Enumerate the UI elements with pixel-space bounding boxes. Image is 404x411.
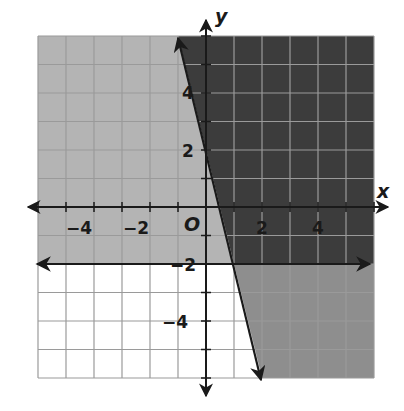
y-tick-label-neg4: −4 (162, 312, 188, 332)
x-tick-label-4: 4 (312, 218, 324, 238)
x-axis-label: x (376, 180, 390, 202)
x-tick-label-neg4: −4 (66, 218, 92, 238)
inequality-graph: x y O −4 −2 2 4 4 2 −2 −4 (0, 0, 404, 411)
y-axis-label: y (215, 5, 229, 27)
x-tick-label-2: 2 (256, 218, 268, 238)
origin-label: O (184, 213, 200, 235)
y-tick-label-2: 2 (182, 141, 194, 161)
chart-svg: x y O −4 −2 2 4 4 2 −2 −4 (0, 0, 404, 411)
x-tick-label-neg2: −2 (123, 218, 149, 238)
y-tick-label-neg2: −2 (170, 255, 196, 275)
y-tick-label-4: 4 (182, 83, 194, 103)
